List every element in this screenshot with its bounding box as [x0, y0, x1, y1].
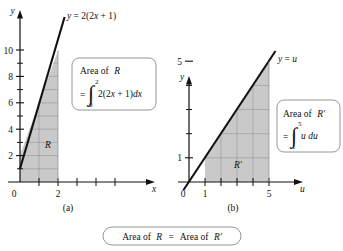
math-figure-svg: y x 10 8 6 4 2 0 2 R y = 2(2x + 1) Area …: [0, 0, 343, 251]
x-axis-label-b: u: [300, 184, 305, 194]
formula-box-b-lower-limit: 1: [292, 143, 296, 151]
x-tick-label-0-a: 0: [12, 189, 17, 199]
conclusion-caption-text: Area of R = Area of R′: [122, 232, 222, 242]
y-tick-label-6-a: 6: [8, 98, 13, 108]
conclusion-caption: Area of R = Area of R′: [103, 227, 241, 245]
formula-box-a-integrand: 2(2x + 1)dx: [98, 89, 143, 100]
region-label-R: R: [44, 140, 51, 150]
formula-box-b: Area of R′ = ∫ 5 1 u du: [277, 100, 340, 152]
y-axis-arrow-b: [186, 76, 192, 85]
y-tick-label-10-a: 10: [4, 46, 14, 56]
figure-container: y x 10 8 6 4 2 0 2 R y = 2(2x + 1) Area …: [0, 0, 343, 251]
x-axis-label-a: x: [151, 184, 157, 194]
formula-box-b-frame: [277, 100, 340, 152]
y-axis-label-b: y: [179, 72, 185, 82]
y-tick-label-8-a: 8: [8, 72, 13, 82]
y-tick-label-2-a: 2: [8, 151, 13, 161]
panel-b: y u 5 1 0 1 5 R′ y = u Area of R′ = ∫ 5: [177, 51, 340, 214]
y-axis-arrow-a: [17, 10, 23, 19]
curve-equation-label-b: y = u: [277, 54, 297, 64]
region-label-Rprime: R′: [233, 160, 243, 170]
formula-box-a-title: Area of R: [80, 66, 120, 76]
formula-box-b-equals: =: [283, 132, 288, 142]
y-axis-label-a: y: [10, 6, 16, 16]
formula-box-a-equals: =: [80, 90, 85, 100]
x-tick-label-1-b: 1: [203, 189, 208, 199]
y-tick-label-4-a: 4: [8, 125, 13, 135]
y-tick-label-1-b: 1: [177, 153, 182, 163]
curve-equation-label-a: y = 2(2x + 1): [66, 11, 116, 22]
x-tick-label-2-a: 2: [56, 189, 61, 199]
y-tick-label-5-b: 5: [177, 57, 182, 67]
x-tick-label-5-b: 5: [267, 189, 272, 199]
formula-box-b-upper-limit: 5: [298, 120, 302, 128]
formula-box-a: Area of R = ∫ 2 0 2(2x + 1)dx: [72, 58, 156, 110]
panel-a: y x 10 8 6 4 2 0 2 R y = 2(2x + 1) Area …: [4, 6, 158, 214]
panel-label-b: (b): [227, 203, 238, 214]
formula-box-a-upper-limit: 2: [95, 78, 99, 86]
formula-box-b-integrand: u du: [301, 131, 318, 141]
formula-box-a-lower-limit: 0: [89, 101, 93, 109]
panel-label-a: (a): [63, 203, 74, 214]
formula-box-b-title: Area of R′: [283, 109, 326, 119]
x-tick-label-0-b: 0: [181, 189, 186, 199]
